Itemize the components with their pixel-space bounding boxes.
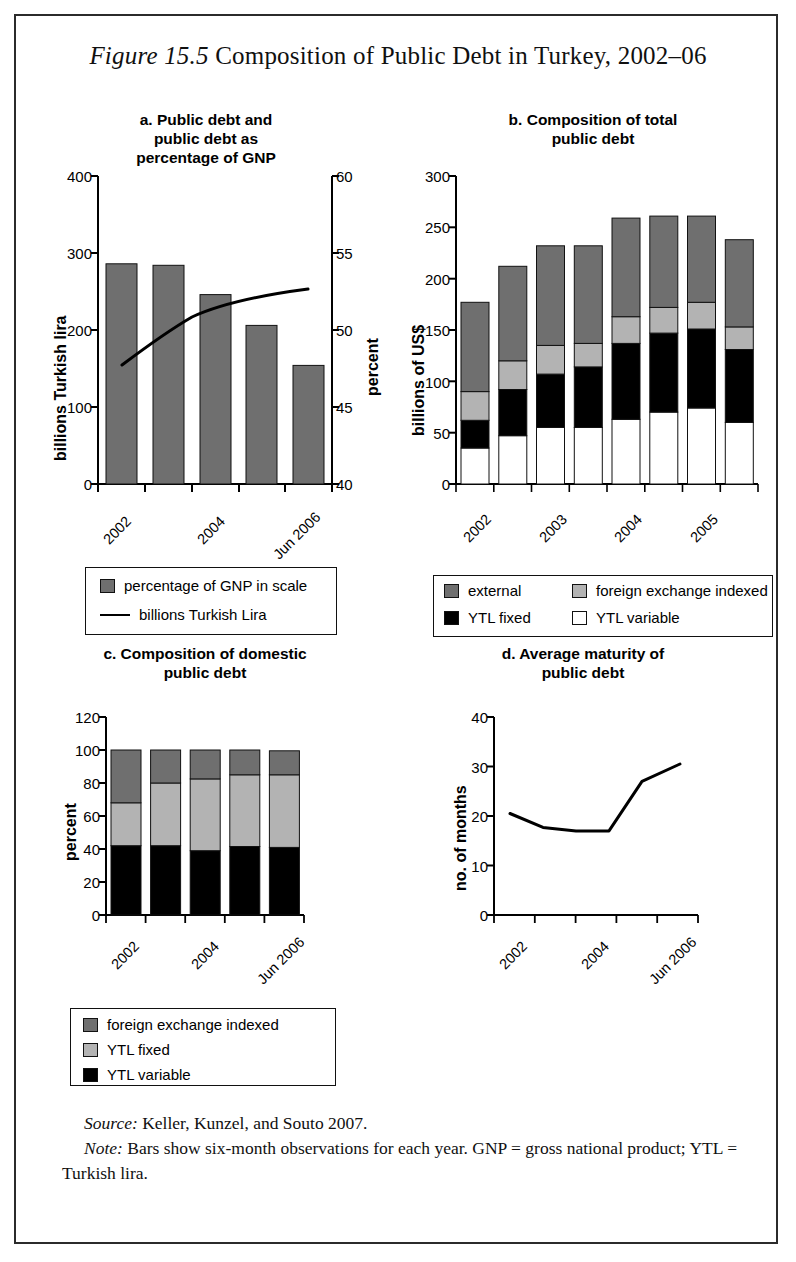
black-square-icon [83, 1068, 98, 1082]
panel-a-canvas [16, 96, 398, 566]
light-gray-square-icon [572, 584, 587, 598]
source-text: Keller, Kunzel, and Souto 2007. [138, 1113, 368, 1133]
note-line: Note: Bars show six-month observations f… [62, 1136, 752, 1186]
line-marker-icon [100, 614, 130, 616]
panel-b-legend-label-2: YTL fixed [468, 609, 531, 626]
note-label: Note: [84, 1138, 123, 1158]
panel-c-legend-item-ytl-variable[interactable]: YTL variable [83, 1066, 191, 1083]
panel-c-legend-label-0: foreign exchange indexed [107, 1016, 279, 1033]
panel-c-legend: foreign exchange indexed YTL fixed YTL v… [70, 1008, 336, 1086]
panel-d: d. Average maturity of public debt no. o… [398, 636, 780, 976]
figure-page: Figure 15.5 Composition of Public Debt i… [0, 0, 796, 1262]
panel-b-plot: billions of US$ 0 50 100 150 200 250 300 [398, 96, 780, 566]
panel-b-legend-label-3: YTL variable [596, 609, 680, 626]
panel-a-bar-4 [246, 325, 277, 484]
dark-gray-square-icon [83, 1018, 98, 1032]
figure-number: Figure 15.5 [89, 42, 208, 69]
panel-a: a. Public debt and public debt as percen… [16, 96, 398, 566]
panel-a-plot: billions Turkish lira percent 0 100 200 … [16, 96, 398, 566]
panel-a-bar-3 [200, 295, 231, 484]
figure-title-text: Composition of Public Debt in Turkey, 20… [209, 42, 707, 69]
panel-c-legend-label-1: YTL fixed [107, 1041, 170, 1058]
panel-b-bar-2 [499, 266, 527, 484]
panel-c-plot: percent 0 20 40 60 80 100 120 [16, 636, 398, 976]
panel-b-legend-label-1: foreign exchange indexed [596, 582, 768, 599]
panel-a-legend: percentage of GNP in scale billions Turk… [85, 567, 337, 635]
panel-a-bar-2 [153, 265, 184, 484]
white-square-icon [572, 611, 587, 625]
panel-c-legend-item-fx-indexed[interactable]: foreign exchange indexed [83, 1016, 279, 1033]
panel-c-bar-1 [111, 750, 141, 915]
panel-b-legend-item-external[interactable]: external [444, 582, 521, 599]
dark-gray-square-icon [444, 584, 459, 598]
panel-a-bar-5 [293, 365, 324, 484]
panel-b-legend: external foreign exchange indexed YTL fi… [433, 575, 773, 637]
panel-c-bar-2 [151, 750, 181, 915]
panel-c: c. Composition of domestic public debt p… [16, 636, 398, 976]
figure-footnotes: Source: Keller, Kunzel, and Souto 2007. … [62, 1111, 752, 1186]
source-label: Source: [84, 1113, 138, 1133]
panel-b: b. Composition of total public debt bill… [398, 96, 780, 566]
panel-a-legend-label-0: percentage of GNP in scale [124, 577, 307, 594]
panel-b-bar-4 [574, 246, 602, 484]
panel-b-bar-5 [612, 218, 640, 484]
panel-b-bar-8 [725, 240, 753, 484]
panel-b-canvas [398, 96, 780, 566]
panel-c-bar-4 [230, 750, 260, 915]
panel-b-legend-item-ytl-variable[interactable]: YTL variable [572, 609, 680, 626]
panel-b-legend-item-fx-indexed[interactable]: foreign exchange indexed [572, 582, 768, 599]
panel-b-bar-3 [537, 246, 565, 484]
panel-b-bar-7 [688, 216, 716, 484]
panel-a-legend-item-1[interactable]: billions Turkish Lira [100, 606, 267, 623]
note-text: Bars show six-month observations for eac… [62, 1138, 737, 1183]
black-square-icon [444, 611, 459, 625]
panel-a-legend-item-0[interactable]: percentage of GNP in scale [100, 577, 307, 594]
panel-b-legend-label-0: external [468, 582, 521, 599]
source-line: Source: Keller, Kunzel, and Souto 2007. [62, 1111, 752, 1136]
panel-c-canvas [16, 636, 398, 976]
panel-d-canvas [398, 636, 780, 976]
panel-b-bar-6 [650, 216, 678, 484]
figure-frame: Figure 15.5 Composition of Public Debt i… [14, 14, 778, 1244]
gray-square-icon [100, 579, 115, 593]
panel-c-legend-item-ytl-fixed[interactable]: YTL fixed [83, 1041, 170, 1058]
figure-title: Figure 15.5 Composition of Public Debt i… [16, 42, 780, 70]
light-gray-square-icon [83, 1043, 98, 1057]
panel-b-legend-item-ytl-fixed[interactable]: YTL fixed [444, 609, 531, 626]
panel-d-line-series [510, 764, 680, 831]
panel-d-plot: no. of months 0 10 20 30 40 [398, 636, 780, 976]
panel-c-bar-3 [190, 750, 220, 915]
panel-b-bar-1 [461, 302, 489, 484]
panel-c-bar-5 [269, 751, 299, 915]
panel-c-legend-label-2: YTL variable [107, 1066, 191, 1083]
panel-a-legend-label-1: billions Turkish Lira [139, 606, 267, 623]
panel-a-bar-1 [106, 264, 137, 484]
